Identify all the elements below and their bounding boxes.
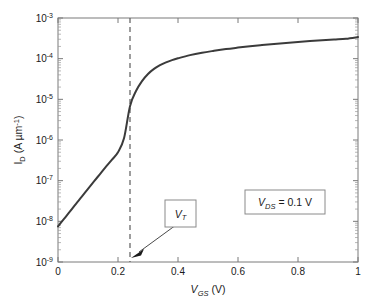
vds-label-rest: = 0.1 V [275,196,311,208]
svg-text:10-5: 10-5 [36,93,53,105]
y-tick-exp-6: -9 [47,256,53,263]
x-axis-title: VGS (V) [191,283,226,298]
transfer-characteristic-chart: 10-3 10-4 10-5 10-6 10-7 10-8 10-9 0 0.2 [0,0,372,304]
y-tick-exp-0: -3 [47,12,53,19]
x-tick-label-0: 0 [55,266,61,277]
x-tick-label-5: 1 [355,266,361,277]
svg-text:10-6: 10-6 [36,134,53,146]
y-axis-title: ID (A µm-1) [12,115,27,164]
y-axis-title-unit: (A µm [12,125,24,156]
svg-text:10-7: 10-7 [36,174,53,186]
y-tick-exp-2: -5 [47,93,53,100]
vds-label-sub: DS [265,202,275,211]
y-tick-labels: 10-3 10-4 10-5 10-6 10-7 10-8 10-9 [36,12,53,268]
x-tick-label-2: 0.4 [171,266,185,277]
figure-container: 10-3 10-4 10-5 10-6 10-7 10-8 10-9 0 0.2 [0,0,372,304]
x-tick-label-1: 0.2 [111,266,125,277]
y-tick-exp-3: -6 [47,134,53,141]
plot-area-background [58,18,358,262]
svg-text:10-4: 10-4 [36,52,53,64]
x-tick-labels: 0 0.2 0.4 0.6 0.8 1 [55,266,361,277]
y-tick-exp-4: -7 [47,174,53,181]
vt-annotation: VT [165,200,196,227]
y-tick-exp-1: -4 [47,52,53,59]
vds-annotation: VDS = 0.1 V [245,190,325,214]
svg-text:10-8: 10-8 [36,215,53,227]
x-tick-label-3: 0.6 [231,266,245,277]
x-axis-title-sub: GS [198,289,209,298]
svg-text:10-9: 10-9 [36,256,53,268]
y-axis-title-unit-close: ) [12,115,24,119]
x-tick-label-4: 0.8 [291,266,305,277]
y-axis-title-unit-sup: -1 [12,119,21,126]
y-tick-exp-5: -8 [47,215,53,222]
x-axis-title-unit: (V) [208,283,225,295]
svg-text:10-3: 10-3 [36,12,53,24]
